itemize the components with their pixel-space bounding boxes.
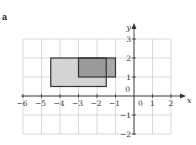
- rectangles: [51, 58, 116, 87]
- y-axis-arrow-icon: [132, 23, 137, 29]
- x-tick-label: −1: [109, 99, 120, 108]
- y-tick-label: 3: [126, 35, 131, 44]
- y-tick-label: 2: [126, 54, 131, 63]
- y-tick-label: −2: [120, 130, 131, 139]
- x-tick-label: −5: [35, 99, 46, 108]
- x-tick-label: 2: [169, 99, 174, 108]
- coordinate-grid: −6−5−4−3−2−1120321−1−20xy: [0, 0, 196, 145]
- x-axis-arrow-icon: [180, 94, 186, 99]
- y-zero-label: 0: [125, 85, 130, 94]
- origin-label: 0: [138, 99, 143, 108]
- overlap-region: [79, 58, 107, 77]
- x-tick-label: −6: [16, 99, 27, 108]
- y-tick-label: −1: [120, 111, 131, 120]
- x-tick-label: −4: [53, 99, 64, 108]
- y-axis-label: y: [125, 23, 131, 32]
- x-tick-label: 1: [150, 99, 155, 108]
- x-axis-label: x: [187, 96, 192, 105]
- x-tick-label: −3: [72, 99, 83, 108]
- x-tick-label: −2: [90, 99, 101, 108]
- y-tick-label: 1: [126, 73, 131, 82]
